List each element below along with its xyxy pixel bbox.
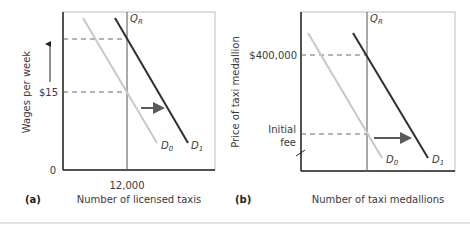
- panel-a-d0-label: D0: [161, 140, 174, 153]
- panel-a-x-axis-label: Number of licensed taxis: [77, 194, 202, 205]
- panel-a: QR D0 D1 $15 0 12,000 Number of licensed…: [21, 12, 215, 205]
- panel-a-y-axis-label: Wages per week: [21, 51, 32, 134]
- panel-b-y-tick-fee: fee: [280, 137, 296, 148]
- panel-a-d1-label: D1: [191, 140, 203, 153]
- panel-b: QR D0 D1 $400,000 Initial fee Number of …: [230, 12, 455, 205]
- panel-a-origin-label: 0: [50, 165, 56, 176]
- panel-b-y-axis-label: Price of taxi medallion: [230, 36, 241, 147]
- panel-b-d0-curve: [308, 33, 382, 158]
- panel-a-y-tick-15: $15: [39, 87, 58, 98]
- panel-a-tag: (a): [25, 194, 41, 205]
- taxi-quota-diagram: QR D0 D1 $15 0 12,000 Number of licensed…: [0, 0, 470, 230]
- panel-b-d0-label: D0: [386, 154, 399, 167]
- panel-b-x-axis-label: Number of taxi medallions: [312, 194, 444, 205]
- panel-b-y-tick-400000: $400,000: [249, 50, 297, 61]
- panel-b-y-tick-initial: Initial: [268, 124, 296, 135]
- panel-b-tag: (b): [235, 194, 251, 205]
- panel-b-d1-curve: [353, 33, 428, 158]
- panel-b-quota-label: QR: [370, 13, 383, 26]
- panel-a-x-tick-12000: 12,000: [110, 180, 145, 191]
- panel-a-d1-curve: [115, 18, 188, 143]
- panel-b-d1-label: D1: [432, 154, 444, 167]
- panel-b-frame: [301, 12, 455, 171]
- panel-a-d0-curve: [83, 18, 157, 143]
- panel-a-quota-label: QR: [130, 13, 143, 26]
